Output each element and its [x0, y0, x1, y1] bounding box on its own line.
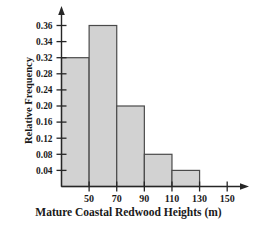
y-tick-label: 0.08: [36, 150, 53, 160]
y-tick-label: 0.16: [36, 117, 53, 127]
x-tick-label: 130: [192, 193, 207, 204]
histogram-bar: [144, 154, 172, 186]
histogram-bar: [172, 170, 200, 186]
y-tick-label: 0.32: [36, 53, 53, 63]
y-tick-label: 0.34: [36, 37, 53, 47]
histogram-figure: 0.040.080.120.160.200.240.280.320.340.36…: [0, 0, 257, 228]
x-tick-label: 90: [139, 193, 149, 204]
y-tick-label: 0.20: [36, 101, 53, 111]
histogram-bar: [89, 26, 117, 187]
histogram-bar: [117, 106, 145, 187]
x-axis-title: Mature Coastal Redwood Heights (m): [0, 206, 257, 218]
y-tick-label: 0.04: [36, 166, 53, 176]
y-tick-label: 0.24: [36, 85, 53, 95]
y-tick-label: 0.28: [36, 69, 53, 79]
x-tick-label: 150: [220, 193, 235, 204]
y-tick-label: 0.36: [36, 21, 53, 31]
y-axis-arrow-icon: [58, 6, 65, 15]
y-axis-title: Relative Frequency: [23, 21, 34, 181]
x-tick-label: 50: [84, 193, 94, 204]
bars-group: [62, 26, 200, 187]
x-tick-label: 110: [165, 193, 179, 204]
y-tick-label: 0.12: [36, 134, 53, 144]
x-tick-label: 70: [112, 193, 122, 204]
histogram-plot: 0.040.080.120.160.200.240.280.320.340.36…: [0, 0, 257, 228]
x-axis-arrow-icon: [240, 183, 249, 190]
